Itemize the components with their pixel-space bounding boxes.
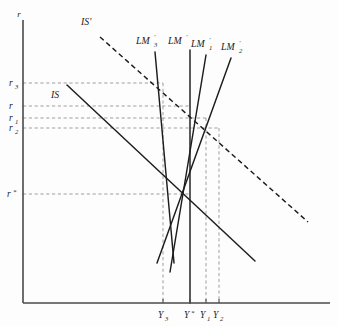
- curve-label-LM1-prime-mark: ′: [209, 36, 211, 43]
- curve-label-LM2-base: LM: [220, 41, 235, 52]
- x-tick-label-Y1: Y 1: [200, 310, 210, 322]
- x-tick-label-Ystar: Y *: [184, 309, 195, 320]
- curve-LM3-prime: [155, 52, 174, 263]
- y-tick-base-r: r: [9, 101, 13, 111]
- x-tick-base-Y1: Y: [200, 310, 207, 320]
- is-lm-figure: r r 3 r r 1 r 2 r *: [0, 0, 338, 326]
- x-tick-sub-Y2: 2: [220, 315, 224, 322]
- y-tick-label-rstar: r *: [7, 188, 17, 199]
- x-tick-star-Ystar: *: [191, 309, 195, 316]
- curves: [67, 37, 308, 303]
- curve-label-LM3-prime: LM 3 ′: [135, 33, 158, 48]
- y-tick-sub-r3: 3: [14, 83, 19, 90]
- curve-LM1-prime: [170, 55, 206, 272]
- curve-label-LM1-prime: LM 1 ′: [190, 36, 212, 51]
- curve-label-LM-prime: LM ′: [167, 33, 188, 46]
- curve-label-LM-base: LM: [167, 35, 182, 46]
- x-tick-sub-Y3: 3: [164, 315, 169, 322]
- curve-label-IS-prime: IS': [80, 16, 92, 27]
- x-tick-sub-Y1: 1: [207, 315, 210, 322]
- is-lm-plot: r r 3 r r 1 r 2 r *: [0, 0, 338, 326]
- y-tick-sub-r2: 2: [15, 128, 19, 135]
- x-tick-label-Y2: Y 2: [213, 310, 224, 322]
- curve-label-LM2-prime: LM 2 ′: [220, 39, 243, 54]
- y-tick-label-r3: r 3: [9, 78, 19, 90]
- curve-label-LM3-base: LM: [135, 35, 150, 46]
- y-tick-base-rstar: r: [7, 189, 11, 199]
- curve-label-LM1-sub: 1: [209, 44, 212, 51]
- x-tick-base-Y2: Y: [213, 310, 220, 320]
- y-tick-label-r: r: [9, 101, 13, 111]
- y-tick-sub-r1: 1: [15, 118, 18, 125]
- curve-label-IS: IS: [50, 89, 59, 100]
- curve-label-LM-prime-mark: ′: [186, 33, 188, 40]
- axes: [23, 20, 330, 303]
- y-tick-star-rstar: *: [13, 188, 17, 195]
- y-tick-base-r2: r: [9, 123, 13, 133]
- y-axis-label: r: [17, 9, 21, 19]
- curve-label-LM2-prime-mark: ′: [239, 39, 241, 46]
- x-tick-label-Y3: Y 3: [158, 310, 169, 322]
- curve-LM2-prime: [157, 58, 231, 263]
- curve-label-LM2-sub: 2: [239, 47, 243, 54]
- y-tick-base-r3: r: [9, 78, 13, 88]
- x-tick-base-Y3: Y: [158, 310, 165, 320]
- curve-labels: IS IS' LM 3 ′ LM ′ LM 1 ′ LM 2 ′: [50, 16, 243, 100]
- curve-label-LM3-prime-mark: ′: [154, 33, 156, 40]
- curve-label-LM1-base: LM: [190, 38, 205, 49]
- x-tick-base-Ystar: Y: [184, 310, 191, 320]
- y-tick-base-r1: r: [9, 113, 13, 123]
- y-tick-labels: r 3 r r 1 r 2 r *: [7, 78, 19, 199]
- x-tick-labels: Y 3 Y * Y 1 Y 2: [158, 309, 224, 322]
- curve-label-LM3-sub: 3: [153, 41, 158, 48]
